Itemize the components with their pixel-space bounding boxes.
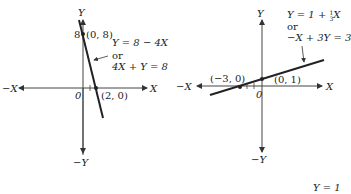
left-point-0-8 xyxy=(81,32,85,36)
right-equation-line1: Y = 1 + 13X xyxy=(287,9,340,22)
right-origin-label: 0 xyxy=(256,89,262,100)
left-x-axis-label: X xyxy=(150,83,157,94)
right-neg-y-axis-label: −Y xyxy=(251,154,266,165)
left-point-label-2-0: (2, 0) xyxy=(101,90,128,101)
left-origin-label: 0 xyxy=(75,90,81,101)
left-y-tick-8: 8 xyxy=(74,29,80,40)
left-point-label-0-8: (0, 8) xyxy=(86,29,113,40)
right-y-axis-label: Y xyxy=(257,8,264,19)
right-x-axis-label: X xyxy=(326,81,333,92)
right-equation-or: or xyxy=(287,21,298,32)
footer-partial-equation: Y = 1 xyxy=(313,182,341,193)
right-point-label-neg3-0: (−3, 0) xyxy=(210,73,245,84)
left-equation-line2: 4X + Y = 8 xyxy=(112,61,168,72)
left-equation-line1: Y = 8 − 4X xyxy=(112,37,168,48)
left-neg-y-axis-label: −Y xyxy=(73,157,88,168)
left-y-axis-label: Y xyxy=(78,7,85,18)
left-equation-or: or xyxy=(112,50,123,61)
right-neg-x-axis-label: −X xyxy=(176,81,192,92)
right-point-label-0-1: (0, 1) xyxy=(274,74,301,85)
right-point-neg3-0 xyxy=(238,85,242,89)
left-point-2-0 xyxy=(94,86,98,90)
right-equation-line2: −X + 3Y = 3 xyxy=(287,32,351,43)
left-neg-x-axis-label: −X xyxy=(2,83,18,94)
right-point-0-1 xyxy=(260,77,264,81)
